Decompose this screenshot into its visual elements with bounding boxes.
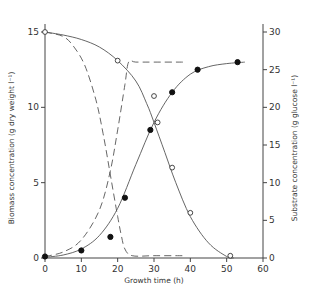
data-points — [42, 30, 240, 259]
y2-tick-label: 5 — [269, 215, 275, 225]
x-tick-label: 20 — [112, 264, 124, 274]
curves — [45, 32, 245, 258]
substrate-point — [188, 210, 193, 215]
growth-chart: 0102030405060051015051015202530 Growth t… — [0, 0, 311, 300]
y2-tick-label: 30 — [269, 27, 281, 37]
x-tick-label: 40 — [185, 264, 197, 274]
x-tick-label: 60 — [257, 264, 269, 274]
model-curve-dashed — [45, 32, 183, 256]
fitted-curve — [45, 62, 245, 257]
y2-axis-title: Substrate concentration (g glucose l⁻¹) — [290, 75, 299, 221]
y2-tick-label: 15 — [269, 140, 280, 150]
y-tick-label: 10 — [28, 102, 40, 112]
y-axis-title: Biomass concentration (g dry weight l⁻¹) — [7, 72, 16, 225]
substrate-point — [115, 58, 120, 63]
substrate-point — [228, 253, 233, 258]
substrate-point — [43, 30, 48, 35]
biomass-point — [122, 195, 127, 200]
axes: 0102030405060051015051015202530 — [28, 24, 281, 274]
biomass-point — [79, 248, 84, 253]
y2-tick-label: 0 — [269, 253, 275, 263]
x-tick-label: 10 — [76, 264, 88, 274]
y-tick-label: 15 — [28, 27, 39, 37]
biomass-point — [108, 234, 113, 239]
x-tick-label: 0 — [42, 264, 48, 274]
biomass-point — [195, 67, 200, 72]
biomass-point — [170, 90, 175, 95]
model-curve-dashed — [45, 60, 183, 256]
x-tick-label: 30 — [148, 264, 160, 274]
biomass-point — [42, 254, 47, 259]
y-tick-label: 0 — [33, 253, 39, 263]
y2-tick-label: 10 — [269, 178, 281, 188]
x-tick-label: 50 — [221, 264, 233, 274]
substrate-point — [155, 120, 160, 125]
substrate-point — [152, 94, 157, 99]
biomass-point — [148, 127, 153, 132]
y-tick-label: 5 — [33, 178, 39, 188]
substrate-point — [170, 165, 175, 170]
x-axis-title: Growth time (h) — [124, 276, 184, 285]
fitted-curve — [45, 32, 234, 258]
y2-tick-label: 20 — [269, 102, 281, 112]
y2-tick-label: 25 — [269, 65, 280, 75]
biomass-point — [235, 60, 240, 65]
